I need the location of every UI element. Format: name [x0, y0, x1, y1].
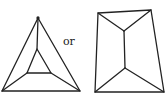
quadrilateral-figure	[95, 10, 164, 92]
inner-segment	[124, 31, 125, 68]
graph-diagram	[0, 0, 165, 97]
edge-bottom-left	[95, 68, 125, 92]
outer-triangle	[2, 18, 80, 91]
edge-top	[37, 18, 38, 49]
or-label: or	[63, 36, 75, 47]
outer-quadrilateral	[95, 10, 164, 92]
edge-bottom-right	[125, 68, 164, 92]
edge-top-right	[124, 10, 151, 31]
triangle-figure	[2, 17, 80, 91]
inner-triangle	[27, 49, 51, 73]
edge-bottom-right	[51, 73, 80, 91]
edge-top-left	[98, 13, 124, 31]
vertex-dot	[37, 17, 39, 19]
